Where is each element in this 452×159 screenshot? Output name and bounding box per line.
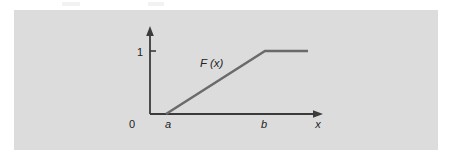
cdf-curve [166,51,308,114]
y-axis-arrowhead [146,26,154,36]
curve-label-fx: F (x) [200,57,224,69]
x-axis-label: x [314,118,321,130]
figure-root: 1 0 a b x F (x) [0,0,452,159]
x-tick-label-b: b [261,118,267,130]
x-axis-arrowhead [313,110,323,118]
x-tick-label-a: a [165,118,171,130]
y-tick-label-1: 1 [137,46,143,58]
origin-label: 0 [129,118,135,130]
cdf-chart: 1 0 a b x F (x) [0,0,452,159]
